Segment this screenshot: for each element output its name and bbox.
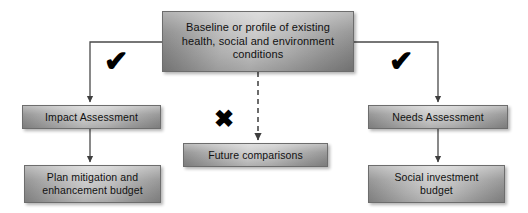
node-impact-assessment-label: Impact Assessment (39, 111, 144, 124)
node-baseline-label: Baseline or profile of existing health, … (176, 21, 341, 61)
node-plan-mitigation-label: Plan mitigation and enhancement budget (36, 171, 149, 197)
node-social-investment-label: Social investment budget (388, 171, 484, 197)
node-future-comparisons-label: Future comparisons (202, 149, 309, 162)
node-future-comparisons: Future comparisons (183, 143, 328, 167)
node-baseline: Baseline or profile of existing health, … (162, 11, 354, 72)
node-social-investment: Social investment budget (368, 165, 505, 203)
node-needs-assessment-label: Needs Assessment (386, 111, 490, 124)
flow-diagram: Baseline or profile of existing health, … (0, 0, 528, 213)
cross-icon-middle: ✖ (214, 107, 234, 131)
check-icon-left: ✔ (104, 47, 128, 76)
node-impact-assessment: Impact Assessment (22, 105, 161, 129)
check-icon-right: ✔ (389, 47, 413, 76)
node-plan-mitigation: Plan mitigation and enhancement budget (24, 165, 161, 203)
node-needs-assessment: Needs Assessment (368, 105, 508, 129)
